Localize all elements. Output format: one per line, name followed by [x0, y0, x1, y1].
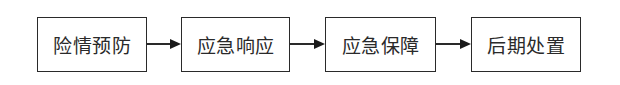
- arrow-line: [290, 43, 315, 45]
- node-label: 应急响应: [197, 31, 275, 58]
- arrow-line: [147, 43, 171, 45]
- arrow-head-icon: [460, 39, 471, 49]
- node-label: 后期处置: [487, 31, 565, 58]
- node-label: 应急保障: [342, 31, 420, 58]
- arrow-head-icon: [170, 39, 181, 49]
- arrow-head-icon: [314, 39, 325, 49]
- node-risk-prevention: 险情预防: [37, 17, 147, 72]
- arrow-line: [436, 43, 461, 45]
- node-emergency-response: 应急响应: [181, 17, 290, 72]
- node-emergency-support: 应急保障: [325, 17, 436, 72]
- node-label: 险情预防: [53, 31, 131, 58]
- node-aftermath-handling: 后期处置: [471, 17, 581, 72]
